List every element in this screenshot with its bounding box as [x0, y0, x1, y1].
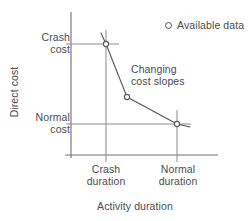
- y-tick-normal-line2: cost: [50, 123, 70, 135]
- legend: Available data: [165, 19, 244, 31]
- changing-cost-slopes-annotation: Changingcost slopes: [131, 63, 209, 87]
- y-tick-label-crash-cost: Crashcost: [26, 31, 70, 55]
- x-tick-label-normal-duration: Normalduration: [144, 163, 212, 187]
- direct-cost-vs-activity-duration-chart: Crashcost Normalcost Crashduration Norma…: [0, 0, 249, 221]
- x-axis-title: Activity duration: [79, 200, 191, 212]
- x-tick-label-crash-duration: Crashduration: [74, 163, 138, 187]
- annotation-line1: Changing: [131, 63, 177, 75]
- annotation-line2: cost slopes: [131, 75, 185, 87]
- x-tick-crash-line1: Crash: [92, 163, 121, 175]
- data-point-intermediate: [124, 94, 129, 99]
- data-point-normal: [174, 121, 179, 126]
- y-tick-crash-line1: Crash: [41, 31, 70, 43]
- circle-marker-icon: [165, 22, 172, 29]
- x-tick-crash-line2: duration: [87, 175, 126, 187]
- x-tick-normal-line1: Normal: [161, 163, 195, 175]
- y-axis-title: Direct cost: [8, 60, 20, 124]
- x-tick-normal-line2: duration: [159, 175, 198, 187]
- data-point-crash: [103, 41, 108, 46]
- y-tick-crash-line2: cost: [50, 43, 70, 55]
- legend-label: Available data: [177, 19, 244, 31]
- y-tick-normal-line1: Normal: [36, 111, 70, 123]
- y-tick-label-normal-cost: Normalcost: [22, 111, 70, 135]
